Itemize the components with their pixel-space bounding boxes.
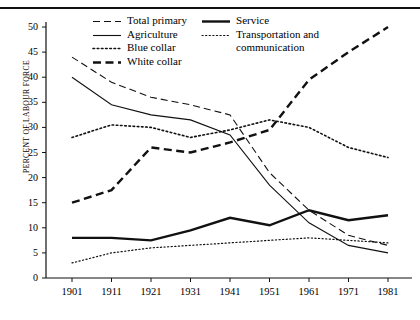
series-line-transportation-and-communication [72,238,388,263]
x-tick-label: 1961 [289,286,329,297]
legend-column-left: Total primary Agriculture Blue collar Wh… [92,14,187,68]
chart-legend: Total primary Agriculture Blue collar Wh… [92,14,319,68]
y-tick-label: 15 [12,198,38,208]
legend-item-service: Service [201,14,319,28]
legend-label: Blue collar [127,41,176,55]
y-axis-label: PERCENT OF LABOUR FORCE [22,47,31,187]
legend-swatch-dashed-bold-icon [92,55,122,69]
x-tick-label: 1901 [52,286,92,297]
chart-figure: PERCENT OF LABOUR FORCE 0510152025303540… [0,0,420,320]
legend-label: Total primary [127,14,187,28]
legend-label-line2: communication [236,41,319,55]
x-tick-label: 1951 [250,286,290,297]
y-tick-label: 0 [12,273,38,283]
legend-label-line1: Transportation and [236,28,319,40]
y-tick-label: 10 [12,223,38,233]
x-tick-label: 1931 [171,286,211,297]
series-line-blue-collar [72,120,388,158]
x-tick-label: 1921 [131,286,171,297]
legend-column-right: Service Transportation and communication [201,14,319,68]
series-line-agriculture [72,77,388,253]
legend-item-white-collar: White collar [92,55,187,69]
y-tick-label: 45 [12,47,38,57]
y-tick-label: 35 [12,97,38,107]
legend-swatch-dotted-icon [92,41,122,55]
legend-swatch-solid-bold-icon [201,14,231,28]
legend-label: Service [236,14,269,28]
y-tick-label: 25 [12,148,38,158]
y-tick-label: 40 [12,72,38,82]
y-tick-label: 20 [12,173,38,183]
legend-item-transportation: Transportation and communication [201,28,319,55]
legend-label-wrap: Transportation and communication [236,28,319,55]
legend-swatch-solid-thin-icon [92,28,122,42]
series-line-service [72,210,388,240]
legend-item-agriculture: Agriculture [92,28,187,42]
legend-item-total-primary: Total primary [92,14,187,28]
x-tick-label: 1981 [368,286,408,297]
x-tick-label: 1911 [92,286,132,297]
legend-label: Agriculture [127,28,178,42]
legend-label: White collar [127,55,182,69]
y-tick-label: 5 [12,248,38,258]
y-tick-label: 30 [12,122,38,132]
y-tick-label: 50 [12,22,38,32]
x-tick-label: 1971 [329,286,369,297]
legend-swatch-dotted-fine-icon [201,28,231,42]
legend-item-blue-collar: Blue collar [92,41,187,55]
legend-swatch-dashed-icon [92,14,122,28]
x-tick-label: 1941 [210,286,250,297]
